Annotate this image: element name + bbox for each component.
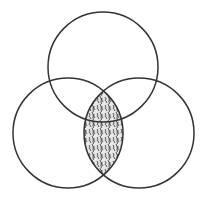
venn-diagram	[0, 0, 207, 207]
venn-diagram-svg	[0, 0, 207, 207]
